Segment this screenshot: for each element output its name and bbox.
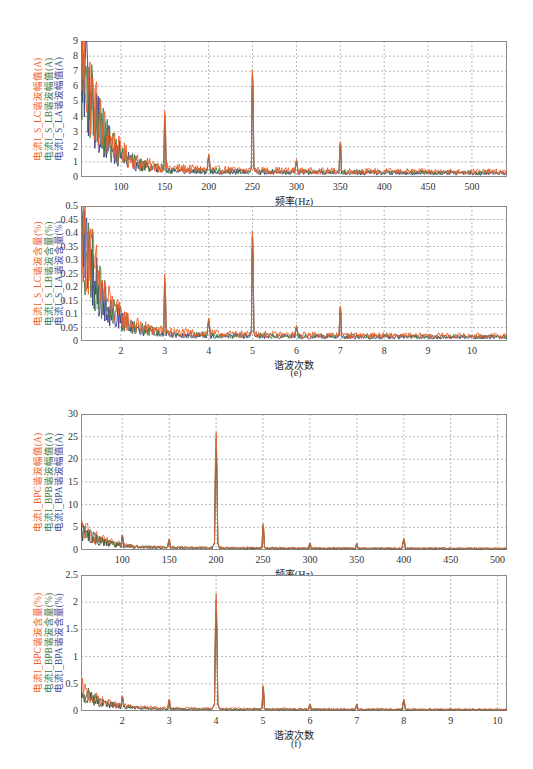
- x-tick-label: 7: [325, 346, 355, 356]
- figure-caption-e: (e): [276, 367, 316, 378]
- x-tick-label: 2: [106, 346, 136, 356]
- chart-f-top: 051015202530100150200250300350400450500频…: [0, 400, 533, 570]
- series-line-i-s-lb: [81, 206, 507, 339]
- y-tick-label: 9: [48, 36, 78, 46]
- x-tick-label: 9: [413, 346, 443, 356]
- plot-svg: [0, 400, 533, 570]
- x-tick-label: 6: [295, 716, 325, 726]
- x-tick-label: 10: [457, 346, 487, 356]
- y-axis-labels: 电流I_BPC谐波含量(%)电流I_BPB谐波含量(%)电流I_BPA谐波含量(…: [33, 593, 65, 693]
- x-tick-label: 200: [201, 555, 231, 565]
- x-tick-label: 100: [107, 555, 137, 565]
- x-tick-label: 350: [325, 182, 355, 192]
- y-tick-label: 2.5: [48, 570, 78, 580]
- x-tick-label: 4: [201, 716, 231, 726]
- x-tick-label: 10: [483, 716, 513, 726]
- x-tick-label: 500: [457, 182, 487, 192]
- x-tick-label: 300: [281, 182, 311, 192]
- x-tick-label: 300: [295, 555, 325, 565]
- x-tick-label: 6: [281, 346, 311, 356]
- chart-f-bottom: 00.511.522.52345678910谐波次数电流I_BPC谐波含量(%)…: [0, 570, 533, 740]
- x-tick-label: 250: [238, 182, 268, 192]
- series-line-i-bpc: [81, 594, 507, 711]
- series-line-i-bpa: [81, 450, 507, 550]
- y-axis-label: 电流I_S_LB谐波含量(%): [44, 221, 55, 326]
- y-tick-label: 0: [48, 172, 78, 182]
- x-tick-label: 7: [342, 716, 372, 726]
- y-axis-label: 电流I_S_LA谐波含量(%): [54, 221, 65, 326]
- y-axis-label: 电流I_S_LC谐波幅值(A): [33, 57, 44, 161]
- x-tick-label: 3: [150, 346, 180, 356]
- series-line-i-s-la: [81, 206, 507, 339]
- series-line-i-s-lc: [81, 41, 507, 175]
- plot-svg: [0, 0, 533, 200]
- x-tick-label: 5: [238, 346, 268, 356]
- series-line-i-bpa: [81, 611, 507, 710]
- y-tick-label: 0: [48, 706, 78, 716]
- figure-caption-f: (f): [276, 738, 316, 749]
- chart-e-bottom: 00.050.10.150.20.250.30.350.40.450.52345…: [0, 195, 533, 365]
- y-axis-labels: 电流I_BPC谐波幅值(A)电流I_BPB谐波幅值(A)电流I_BPA谐波幅值(…: [33, 432, 65, 531]
- series-line-i-s-lc: [81, 206, 507, 339]
- x-tick-label: 400: [389, 555, 419, 565]
- x-tick-label: 8: [389, 716, 419, 726]
- y-tick-label: 30: [48, 409, 78, 419]
- x-tick-label: 100: [106, 182, 136, 192]
- x-tick-label: 450: [413, 182, 443, 192]
- x-tick-label: 200: [194, 182, 224, 192]
- y-axis-label: 电流I_BPC谐波含量(%): [33, 593, 44, 693]
- series-line-i-s-la: [81, 41, 507, 175]
- x-tick-label: 150: [150, 182, 180, 192]
- y-axis-label: 电流I_S_LB谐波幅值(A): [44, 57, 55, 161]
- x-tick-label: 500: [483, 555, 513, 565]
- x-tick-label: 2: [107, 716, 137, 726]
- plot-svg: [0, 195, 533, 365]
- series-line-i-bpb: [81, 438, 507, 549]
- y-axis-label: 电流I_BPA谐波幅值(A): [54, 432, 65, 531]
- y-axis-label: 电流I_BPA谐波含量(%): [54, 593, 65, 693]
- y-axis-label: 电流I_BPB谐波含量(%): [44, 593, 55, 693]
- x-tick-label: 250: [248, 555, 278, 565]
- y-tick-label: 0: [48, 545, 78, 555]
- x-tick-label: 3: [154, 716, 184, 726]
- series-line-i-bpb: [81, 600, 507, 711]
- plot-svg: [0, 570, 533, 740]
- series-line-i-bpc: [81, 432, 507, 549]
- x-tick-label: 5: [248, 716, 278, 726]
- y-axis-labels: 电流I_S_LC谐波幅值(A)电流I_S_LB谐波幅值(A)电流I_S_LA谐波…: [33, 57, 65, 161]
- y-tick-label: 0.5: [48, 201, 78, 211]
- x-tick-label: 4: [194, 346, 224, 356]
- series-line-i-s-lb: [81, 41, 507, 175]
- x-tick-label: 400: [369, 182, 399, 192]
- y-axis-label: 电流I_S_LC谐波含量(%): [33, 221, 44, 326]
- x-tick-label: 8: [369, 346, 399, 356]
- y-axis-label: 电流I_S_LA谐波幅值(A): [54, 57, 65, 161]
- y-axis-label: 电流I_BPC谐波幅值(A): [33, 432, 44, 531]
- x-tick-label: 450: [436, 555, 466, 565]
- x-tick-label: 350: [342, 555, 372, 565]
- chart-e-top: 0123456789100150200250300350400450500频率(…: [0, 0, 533, 200]
- y-axis-labels: 电流I_S_LC谐波含量(%)电流I_S_LB谐波含量(%)电流I_S_LA谐波…: [33, 221, 65, 326]
- y-tick-label: 0: [48, 336, 78, 346]
- x-tick-label: 150: [154, 555, 184, 565]
- x-tick-label: 9: [436, 716, 466, 726]
- y-axis-label: 电流I_BPB谐波幅值(A): [44, 432, 55, 531]
